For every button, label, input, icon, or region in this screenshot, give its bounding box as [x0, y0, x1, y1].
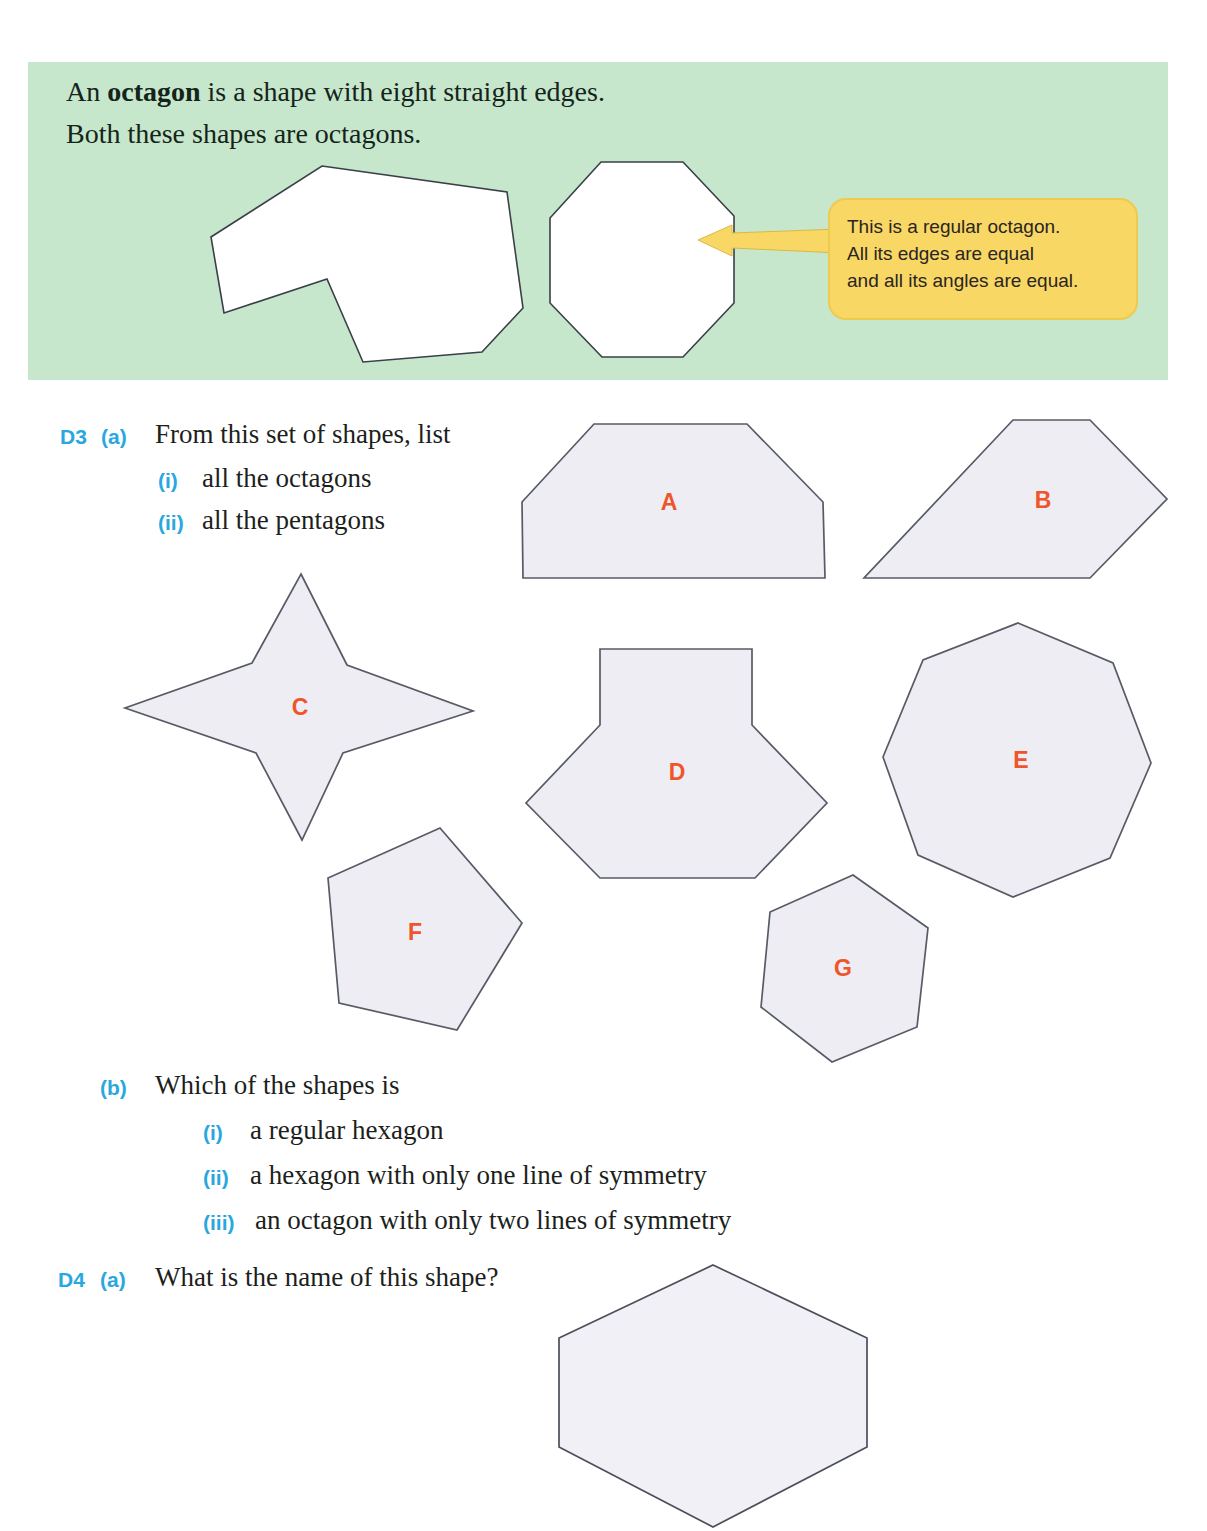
shape-e-label: E — [1013, 747, 1028, 774]
b-item-iii-marker: (iii) — [203, 1211, 235, 1235]
shape-b-polygon — [864, 420, 1167, 578]
example-regular-octagon — [550, 162, 734, 357]
shape-g-label: G — [834, 955, 852, 982]
b-item-ii-text: a hexagon with only one line of symmetry — [250, 1160, 707, 1191]
callout-line-3: and all its angles are equal. — [847, 267, 1136, 294]
callout-line-2: All its edges are equal — [847, 240, 1136, 267]
b-item-i-marker: (i) — [203, 1121, 223, 1145]
example-irregular-octagon — [211, 166, 523, 362]
question-d3-prompt: From this set of shapes, list — [155, 419, 451, 450]
b-item-i-text: a regular hexagon — [250, 1115, 443, 1146]
d4-hexagon-polygon — [559, 1265, 867, 1527]
shape-f-polygon — [328, 828, 522, 1030]
callout-line-1: This is a regular octagon. — [847, 213, 1136, 240]
question-b-part: (b) — [100, 1076, 127, 1100]
d3-item-i-text: all the octagons — [202, 463, 371, 494]
callout-bubble: This is a regular octagon. All its edges… — [828, 198, 1138, 320]
question-b-prompt: Which of the shapes is — [155, 1070, 399, 1101]
b-item-iii-text: an octagon with only two lines of symmet… — [255, 1205, 731, 1236]
d3-item-i-marker: (i) — [158, 469, 178, 493]
shape-c-label: C — [292, 694, 309, 721]
textbook-page: An octagon is a shape with eight straigh… — [0, 0, 1207, 1531]
d3-item-ii-marker: (ii) — [158, 511, 184, 535]
question-d4-number: D4 — [58, 1268, 85, 1292]
shape-d-label: D — [669, 759, 686, 786]
shape-b-label: B — [1035, 487, 1052, 514]
d3-item-ii-text: all the pentagons — [202, 505, 385, 536]
shape-f-label: F — [408, 919, 422, 946]
shape-a-label: A — [661, 489, 678, 516]
question-d4-prompt: What is the name of this shape? — [155, 1262, 498, 1293]
question-d3-part-a: (a) — [101, 425, 127, 449]
question-d3-number: D3 — [60, 425, 87, 449]
b-item-ii-marker: (ii) — [203, 1166, 229, 1190]
question-d4-part: (a) — [100, 1268, 126, 1292]
